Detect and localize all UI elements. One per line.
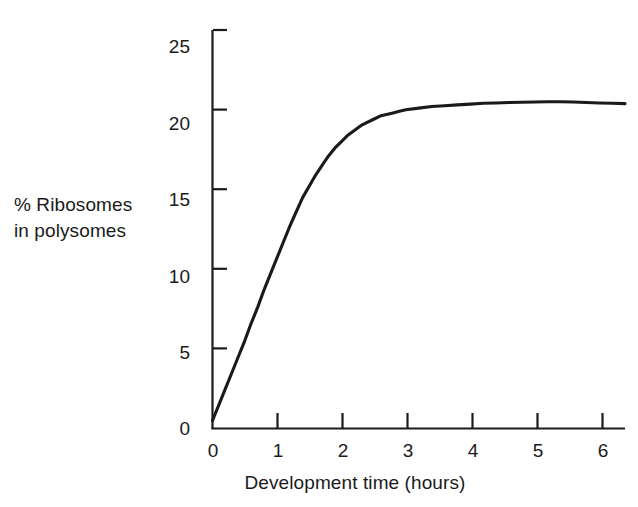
- y-axis-ticks: [213, 30, 227, 348]
- x-axis-ticks: [278, 413, 603, 428]
- chart-figure: % Ribosomes in polysomes 0 5 10 15 20 25…: [0, 0, 638, 507]
- plot-area: [0, 0, 638, 507]
- data-series-line: [213, 102, 626, 421]
- axis-lines: [211, 30, 625, 429]
